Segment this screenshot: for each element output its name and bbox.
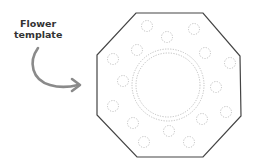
- octagon-outline: [97, 13, 241, 157]
- curved-arrow-icon: [33, 48, 78, 87]
- diagram-canvas: [0, 0, 255, 167]
